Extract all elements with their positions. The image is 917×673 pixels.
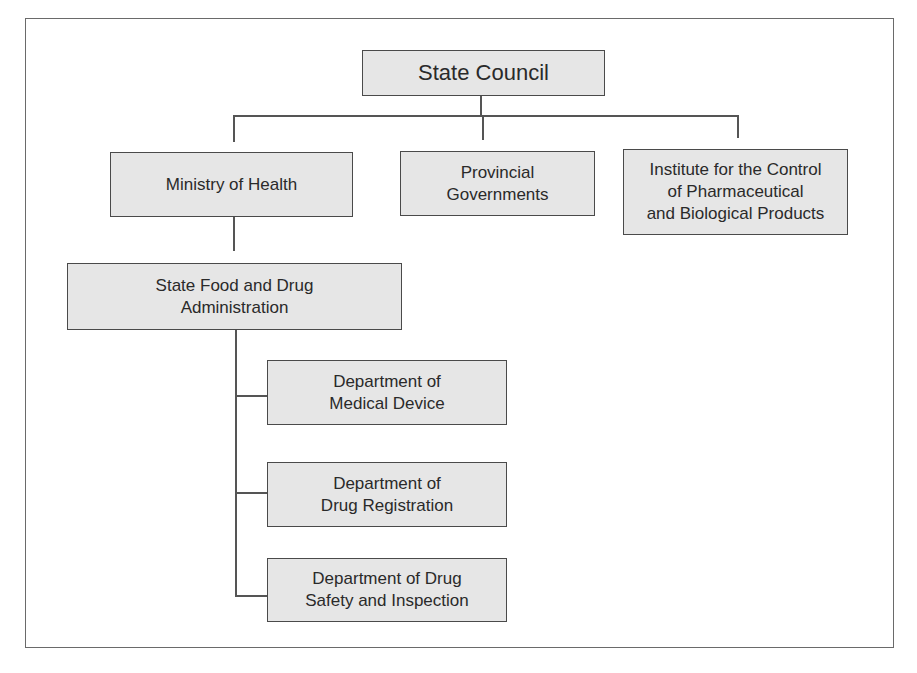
connector-top-horizontal xyxy=(233,115,738,117)
node-dept-medical-device: Department of Medical Device xyxy=(267,360,507,425)
node-provincial-governments: Provincial Governments xyxy=(400,151,595,216)
node-dept-drug-safety: Department of Drug Safety and Inspection xyxy=(267,558,507,622)
node-label: State Food and Drug Administration xyxy=(156,275,314,319)
connector-ministry-stem xyxy=(233,115,235,142)
node-label: Department of Drug Safety and Inspection xyxy=(305,568,469,612)
connector-dept-safety xyxy=(235,595,267,597)
node-dept-drug-registration: Department of Drug Registration xyxy=(267,462,507,527)
connector-state-council-stem xyxy=(480,96,482,116)
node-label: Department of Drug Registration xyxy=(321,473,453,517)
node-label: Institute for the Control of Pharmaceuti… xyxy=(647,159,825,225)
connector-provincial-stem xyxy=(482,115,484,140)
node-sfda: State Food and Drug Administration xyxy=(67,263,402,330)
node-state-council: State Council xyxy=(362,50,605,96)
connector-institute-stem xyxy=(737,115,739,138)
node-ministry-of-health: Ministry of Health xyxy=(110,152,353,217)
connector-sfda-departments xyxy=(235,330,237,596)
connector-dept-medical xyxy=(235,395,267,397)
connector-dept-registration xyxy=(235,492,267,494)
node-label: Provincial Governments xyxy=(446,162,548,206)
node-label: Ministry of Health xyxy=(166,174,297,196)
node-label: Department of Medical Device xyxy=(329,371,444,415)
connector-ministry-sfda xyxy=(233,217,235,251)
node-label: State Council xyxy=(418,62,549,84)
node-institute: Institute for the Control of Pharmaceuti… xyxy=(623,149,848,235)
